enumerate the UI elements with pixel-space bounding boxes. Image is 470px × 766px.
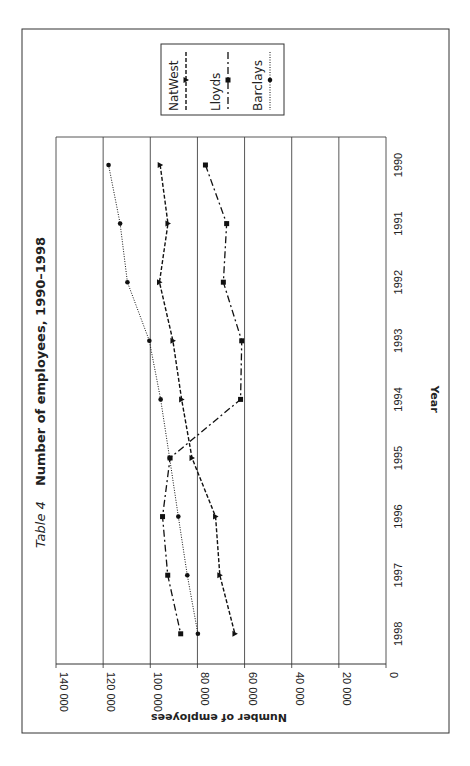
title-text: Number of employees, 1990–1998: [33, 237, 48, 486]
legend: NatWestLloydsBarclays: [161, 44, 284, 115]
value-tick-label: 60 000: [247, 672, 259, 706]
series-line-lloyds: [163, 165, 242, 634]
value-tick-label: 20 000: [341, 672, 353, 706]
year-tick-label: 1995: [392, 446, 404, 470]
legend-label-barclays: Barclays: [251, 60, 265, 111]
value-tick-label: 80 000: [199, 672, 211, 706]
value-tick-label: 140 000: [58, 672, 70, 712]
data-point-lloyds: [165, 573, 170, 578]
chart-title: Table 4 Number of employees, 1990–1998: [30, 237, 49, 548]
year-tick-label: 1998: [392, 622, 404, 646]
value-tick-label: 40 000: [294, 672, 306, 706]
data-point-lloyds: [221, 280, 226, 285]
data-point-lloyds: [178, 631, 183, 636]
legend-label-natwest: NatWest: [167, 60, 181, 111]
data-point-barclays: [118, 221, 123, 226]
value-tick-label: 120 000: [105, 672, 117, 712]
data-point-barclays: [185, 573, 190, 578]
year-tick-label: 1990: [392, 153, 404, 177]
data-point-barclays: [176, 514, 181, 519]
year-tick-label: 1991: [392, 211, 404, 235]
value-tick-label: 0: [388, 672, 400, 678]
line-chart: Table 4 Number of employees, 1990–1998 N…: [0, 0, 470, 766]
data-point-lloyds: [160, 514, 165, 519]
year-tick-label: 1992: [392, 270, 404, 294]
data-point-barclays: [167, 456, 172, 461]
data-point-lloyds: [203, 163, 208, 168]
legend-marker-barclays: [268, 78, 273, 83]
year-tick-label: 1997: [392, 563, 404, 587]
y-axis-title: Number of employees: [151, 711, 287, 724]
data-point-barclays: [106, 163, 111, 168]
x-axis-title: Year: [428, 384, 441, 413]
svg-text:Table 4 Number of employ: Table 4 Number of employees, 1990–1998: [30, 237, 49, 548]
data-point-lloyds: [224, 221, 229, 226]
gridlines: [56, 137, 386, 668]
data-point-natwest: [232, 631, 238, 637]
value-tick-label: 100 000: [152, 672, 164, 712]
data-point-lloyds: [238, 397, 243, 402]
data-point-barclays: [147, 339, 152, 344]
data-point-barclays: [196, 632, 201, 637]
year-tick-label: 1994: [392, 387, 404, 411]
series: [106, 162, 244, 637]
data-point-lloyds: [239, 338, 244, 343]
year-tick-label: 1996: [392, 504, 404, 528]
legend-marker-lloyds: [226, 78, 231, 83]
data-point-barclays: [125, 280, 130, 285]
legend-label-lloyds: Lloyds: [209, 73, 223, 111]
chart-frame: [22, 29, 449, 733]
data-point-barclays: [158, 397, 163, 402]
axes: 020 00040 00060 00080 000100 000120 0001…: [56, 153, 404, 712]
title-prefix: Table 4: [33, 501, 48, 548]
year-tick-label: 1993: [392, 329, 404, 353]
